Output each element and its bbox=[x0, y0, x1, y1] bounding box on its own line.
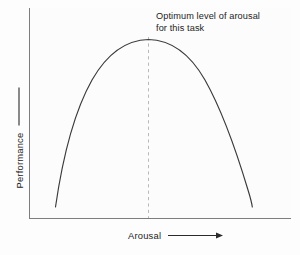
plot-area bbox=[29, 8, 291, 219]
chart-figure: Optimum level of arousal for this task A… bbox=[0, 0, 300, 255]
y-axis-label: Performance bbox=[14, 79, 25, 189]
y-axis-line bbox=[29, 8, 30, 219]
optimum-annotation: Optimum level of arousal for this task bbox=[156, 11, 291, 34]
up-arrow-icon bbox=[15, 86, 24, 128]
x-axis-label: Arousal bbox=[128, 230, 226, 241]
x-axis-label-text: Arousal bbox=[128, 230, 161, 241]
right-arrow-icon bbox=[166, 231, 226, 240]
annotation-line-2: for this task bbox=[156, 23, 291, 35]
y-axis-label-text: Performance bbox=[14, 133, 25, 189]
annotation-line-1: Optimum level of arousal bbox=[156, 11, 291, 23]
x-axis-line bbox=[29, 218, 291, 219]
